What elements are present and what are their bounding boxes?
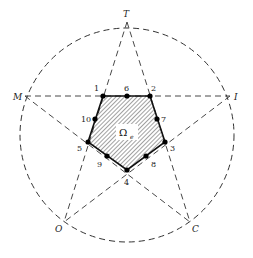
node-label-3: 3	[170, 144, 175, 153]
pentagram-diagram: Ω e 1 2 3 4 5 6 7 8 9 10 T I C O M	[0, 0, 253, 258]
node-label-9: 9	[97, 160, 102, 169]
node-6	[124, 93, 129, 98]
node-5	[85, 139, 90, 144]
node-8	[143, 153, 148, 158]
node-label-10: 10	[81, 115, 91, 124]
node-label-7: 7	[161, 115, 166, 124]
vertex-label-M: M	[12, 92, 23, 102]
element-label: Ω	[119, 127, 127, 138]
node-label-4: 4	[124, 178, 129, 187]
node-9	[104, 153, 109, 158]
element-subscript: e	[130, 133, 134, 140]
node-3	[162, 139, 167, 144]
node-10	[92, 116, 97, 121]
node-2	[147, 93, 152, 98]
node-label-5: 5	[77, 144, 82, 153]
vertex-label-I: I	[233, 92, 238, 102]
node-label-2: 2	[151, 84, 156, 93]
vertex-label-T: T	[123, 9, 130, 19]
vertex-label-O: O	[55, 224, 63, 234]
node-7	[154, 116, 159, 121]
node-label-1: 1	[94, 84, 99, 93]
node-4	[124, 167, 129, 172]
node-label-8: 8	[151, 160, 156, 169]
vertex-label-C: C	[192, 224, 199, 234]
node-label-6: 6	[124, 84, 129, 93]
node-1	[100, 93, 105, 98]
